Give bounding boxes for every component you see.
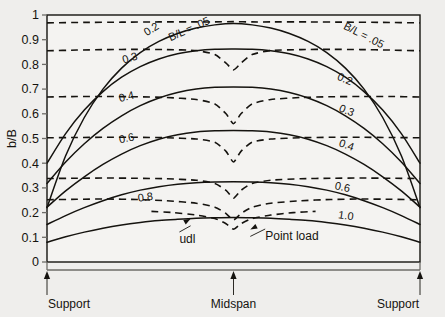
x-caption-support-0: Support	[48, 297, 91, 311]
plot-frame	[47, 15, 420, 262]
label-dash-08-left: 0.8	[137, 190, 154, 204]
y-tick-label: 0.5	[22, 132, 39, 146]
x-caption-support-2: Support	[377, 297, 420, 311]
y-tick-label: 1	[32, 8, 39, 22]
label-solid-10-right: 1.0	[338, 208, 355, 222]
y-tick-label: 0.2	[22, 206, 39, 220]
y-tick-label: 0	[32, 255, 39, 269]
y-tick-label: 0.3	[22, 181, 39, 195]
chart-figure: 00.10.20.30.40.50.60.70.80.91 b/B 0.2B/L…	[0, 0, 445, 317]
y-tick-label: 0.6	[22, 107, 39, 121]
y-tick-label: 0.1	[22, 231, 39, 245]
y-tick-label: 0.4	[22, 157, 39, 171]
y-axis-title: b/B	[5, 129, 19, 148]
y-tick-label: 0.7	[22, 82, 39, 96]
y-tick-label: 0.9	[22, 33, 39, 47]
annotation-udl: udl	[179, 232, 195, 246]
x-caption-midspan-1: Midspan	[211, 297, 256, 311]
y-tick-label: 0.8	[22, 58, 39, 72]
y-axis-label: b/B	[5, 129, 19, 148]
annotation-point-load: Point load	[265, 229, 318, 243]
